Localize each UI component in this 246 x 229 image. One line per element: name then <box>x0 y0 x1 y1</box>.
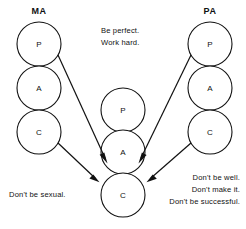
ego-state-column-pa: P A C <box>188 22 232 154</box>
arrow-ma-child-to-child-child <box>58 143 100 182</box>
diagram-canvas: MA PA P A C P A C P A C <box>0 0 246 229</box>
caption-right-injunction-line-1: Don't be well. <box>193 173 240 182</box>
caption-drivers-line-1: Be perfect. <box>101 26 139 35</box>
caption-left-injunction: Don't be sexual. <box>9 190 66 199</box>
label-pa-adult: A <box>207 84 213 93</box>
label-pa-child: C <box>207 128 213 137</box>
label-child-adult: A <box>120 148 126 157</box>
label-child-child: C <box>120 191 126 200</box>
arrow-pa-child-to-child-child <box>147 143 192 182</box>
label-child-parent: P <box>120 106 125 115</box>
label-ma-parent: P <box>36 40 41 49</box>
caption-left-injunction-line-1: Don't be sexual. <box>9 190 66 199</box>
column-header-ma: MA <box>31 6 46 16</box>
ego-state-column-child: P A C <box>101 88 145 217</box>
caption-drivers: Be perfect. Work hard. <box>101 26 140 47</box>
caption-right-injunctions: Don't be well. Don't make it. Don't be s… <box>169 173 240 206</box>
ego-state-column-ma: P A C <box>17 22 61 154</box>
label-ma-adult: A <box>36 84 42 93</box>
arrow-ma-parent-to-child-adult <box>58 55 108 164</box>
caption-right-injunction-line-3: Don't be successful. <box>169 197 240 206</box>
label-pa-parent: P <box>207 40 212 49</box>
column-header-pa: PA <box>203 6 216 16</box>
caption-right-injunction-line-2: Don't make it. <box>192 185 240 194</box>
arrow-pa-parent-to-child-adult <box>139 55 192 164</box>
pac-diagram: MA PA P A C P A C P A C <box>0 0 246 229</box>
label-ma-child: C <box>36 128 42 137</box>
caption-drivers-line-2: Work hard. <box>101 38 140 47</box>
